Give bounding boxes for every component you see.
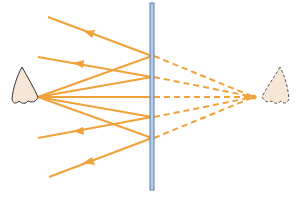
virtual-rays	[154, 56, 254, 138]
mirror	[150, 3, 154, 190]
diagram-canvas	[0, 0, 302, 198]
ray-5-to-eye	[38, 97, 152, 138]
arrow-icon	[84, 30, 95, 38]
ray-1-outer	[48, 17, 152, 56]
reflected-rays	[38, 56, 152, 138]
arrow-icon	[73, 127, 84, 135]
reflection-diagram	[0, 0, 302, 198]
virtual-image-nose-icon	[262, 67, 289, 103]
nose-observer-icon	[12, 67, 38, 103]
virtual-ray-2	[154, 77, 254, 97]
virtual-ray-1	[154, 56, 254, 97]
virtual-ray-4	[154, 97, 254, 117]
ray-2-outer	[38, 57, 152, 77]
ray-1-to-eye	[38, 56, 152, 97]
virtual-image-point	[252, 95, 257, 100]
ray-4-outer	[38, 117, 152, 138]
virtual-ray-5	[154, 97, 254, 138]
ray-5-outer	[49, 138, 152, 177]
ray-2-to-eye	[38, 77, 152, 97]
ray-4-to-eye	[38, 97, 152, 117]
